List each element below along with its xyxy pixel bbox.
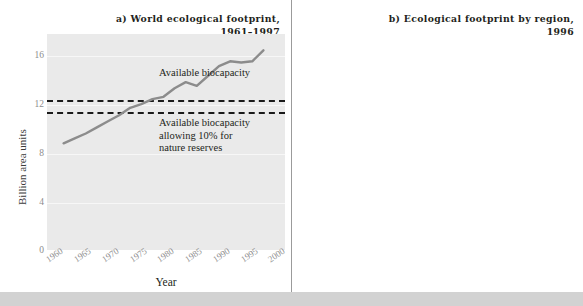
panel-a-title-text: a) World ecological footprint, — [116, 13, 280, 24]
panel-a-x-axis-label: Year — [47, 276, 285, 288]
panel-b-title-text: b) Ecological footprint by region, — [389, 13, 574, 24]
ytick-a-4: 4 — [20, 197, 44, 207]
bottom-strip — [0, 292, 583, 306]
panel-b-subtitle-text: 1996 — [547, 26, 574, 37]
annotation-line-1: Available biocapacity — [159, 117, 250, 128]
panel-a-y-axis-label: Billion area units — [16, 129, 28, 205]
panel-b-title: b) Ecological footprint by region, 1996 — [342, 12, 574, 38]
ytick-a-8: 8 — [20, 148, 44, 158]
ytick-a-0: 0 — [20, 245, 44, 255]
panel-a-plot-area: Available biocapacity Available biocapac… — [47, 34, 285, 250]
ytick-a-16: 16 — [20, 50, 44, 60]
ytick-a-12: 12 — [20, 99, 44, 109]
annotation-biocapacity-reserves: Available biocapacity allowing 10% for n… — [159, 117, 250, 155]
annotation-available-biocapacity: Available biocapacity — [159, 67, 250, 80]
chart-panel-a: a) World ecological footprint, 1961–1997… — [0, 0, 291, 292]
annotation-line-2: allowing 10% for — [159, 130, 233, 141]
annotation-line-3: nature reserves — [159, 142, 222, 153]
figure-root: a) World ecological footprint, 1961–1997… — [0, 0, 583, 306]
chart-panel-b: b) Ecological footprint by region, 1996 … — [292, 0, 583, 292]
